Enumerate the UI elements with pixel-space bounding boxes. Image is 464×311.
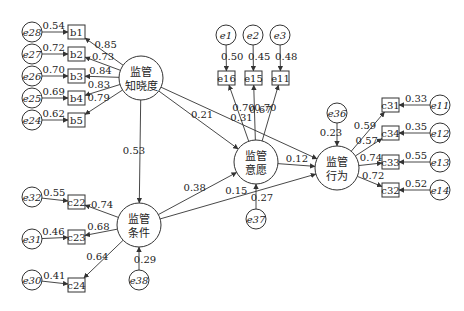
svg-text:e14: e14 <box>431 185 450 196</box>
coefficient-label: 0.35 <box>405 121 427 132</box>
coefficient-label: 0.70 <box>43 64 65 75</box>
coefficient-label: 0.73 <box>92 51 114 62</box>
error-term-e36: e36 <box>327 103 347 123</box>
coefficient-label: 0.84 <box>89 65 111 76</box>
svg-text:b1: b1 <box>70 27 83 38</box>
svg-text:e32: e32 <box>23 192 42 203</box>
coefficient-label: 0.23 <box>320 127 342 138</box>
coefficient-label: 0.53 <box>123 145 145 156</box>
observed-variable-c34: c34 <box>381 126 399 140</box>
observed-variable-b1: b1 <box>68 25 85 39</box>
coefficient-label: 0.59 <box>354 120 376 131</box>
svg-text:e27: e27 <box>23 49 42 60</box>
svg-text:c22: c22 <box>67 197 85 208</box>
coefficient-label: 0.12 <box>286 153 308 164</box>
observed-variable-b5: b5 <box>68 113 85 127</box>
svg-text:e28: e28 <box>23 27 42 38</box>
coefficient-label: 0.68 <box>87 221 109 232</box>
svg-text:e13: e13 <box>431 157 450 168</box>
observed-variable-c22: c22 <box>67 195 85 209</box>
svg-text:c24: c24 <box>67 280 85 291</box>
loading-c33 <box>359 163 382 166</box>
svg-text:e1: e1 <box>220 30 232 41</box>
error-term-e12: e12 <box>430 123 450 143</box>
error-term-e11: e11 <box>430 95 450 115</box>
svg-text:b2: b2 <box>70 49 83 60</box>
svg-text:b5: b5 <box>70 115 83 126</box>
latent-label: 监管 <box>326 155 348 169</box>
coefficient-label: 0.45 <box>248 51 270 62</box>
latent-variable-L3: 监管意愿 <box>234 140 278 184</box>
latent-label: 知晓度 <box>125 79 158 93</box>
latent-label: 监管 <box>128 212 150 226</box>
coefficient-label: 0.70 <box>254 102 276 113</box>
loading-b3 <box>85 76 119 77</box>
coefficient-label: 0.64 <box>86 251 108 262</box>
error-term-e25: e25 <box>22 88 42 108</box>
structural-path-L2-L4 <box>160 174 316 219</box>
observed-variable-e16: e16 <box>217 71 236 85</box>
coefficient-label: 0.62 <box>43 108 65 119</box>
svg-text:e11: e11 <box>271 73 290 84</box>
observed-variable-e15: e15 <box>244 71 263 85</box>
svg-text:e25: e25 <box>23 93 42 104</box>
coefficient-label: 0.15 <box>225 185 247 196</box>
error-term-e32: e32 <box>22 187 42 207</box>
svg-text:e2: e2 <box>247 30 259 41</box>
coefficient-label: 0.29 <box>134 254 156 265</box>
observed-variable-b4: b4 <box>68 91 85 105</box>
error-path-e32 <box>42 198 68 201</box>
svg-text:b4: b4 <box>70 93 83 104</box>
coefficient-label: 0.85 <box>94 39 116 50</box>
observed-variable-c32: c32 <box>381 183 399 197</box>
latent-variable-L2: 监管条件 <box>117 203 161 247</box>
coefficient-label: 0.27 <box>251 192 273 203</box>
svg-text:e26: e26 <box>23 71 42 82</box>
latent-variable-L4: 监管行为 <box>315 146 359 190</box>
latent-label: 行为 <box>326 170 348 183</box>
coefficient-label: 0.50 <box>221 51 243 62</box>
error-term-e14: e14 <box>430 180 450 200</box>
svg-text:e11: e11 <box>431 100 450 111</box>
svg-text:e16: e16 <box>217 73 236 84</box>
coefficient-label: 0.54 <box>43 20 65 31</box>
observed-variable-e11: e11 <box>271 71 290 85</box>
coefficient-label: 0.38 <box>184 182 206 193</box>
svg-text:e15: e15 <box>244 73 263 84</box>
error-path-e31 <box>42 237 68 238</box>
svg-text:e38: e38 <box>130 275 149 286</box>
structural-path-L3-L4 <box>278 164 315 167</box>
svg-text:e31: e31 <box>23 234 42 245</box>
observed-variable-b2: b2 <box>68 47 85 61</box>
error-term-e28: e28 <box>22 22 42 42</box>
latent-label: 意愿 <box>245 163 267 177</box>
error-path-e30 <box>42 281 68 284</box>
error-term-e3: e3 <box>270 25 290 45</box>
latent-label: 监管 <box>245 149 267 163</box>
observed-variable-b3: b3 <box>68 69 85 83</box>
coefficient-label: 0.21 <box>191 109 213 120</box>
coefficient-label: 0.33 <box>405 93 427 104</box>
coefficient-label: 0.48 <box>275 51 297 62</box>
error-term-e38: e38 <box>129 270 149 290</box>
error-term-e13: e13 <box>430 152 450 172</box>
error-term-e30: e30 <box>22 270 42 290</box>
error-term-e1: e1 <box>216 25 236 45</box>
svg-text:c32: c32 <box>381 185 399 196</box>
svg-text:c31: c31 <box>381 100 399 111</box>
coefficient-label: 0.72 <box>362 170 384 181</box>
coefficient-label: 0.72 <box>43 42 65 53</box>
error-term-e26: e26 <box>22 66 42 86</box>
svg-text:e24: e24 <box>23 115 42 126</box>
svg-text:e12: e12 <box>431 128 450 139</box>
observed-variable-c33: c33 <box>381 155 399 169</box>
observed-variable-c31: c31 <box>381 98 399 112</box>
error-term-e31: e31 <box>22 229 42 249</box>
latent-variable-L1: 监管知晓度 <box>119 56 163 100</box>
coefficient-label: 0.41 <box>43 270 65 281</box>
svg-text:b3: b3 <box>70 71 83 82</box>
coefficient-label: 0.74 <box>91 199 113 210</box>
svg-text:e37: e37 <box>247 214 266 225</box>
error-term-e2: e2 <box>243 25 263 45</box>
coefficient-labels-layer: 0.540.720.700.690.620.500.450.480.330.35… <box>42 20 427 281</box>
